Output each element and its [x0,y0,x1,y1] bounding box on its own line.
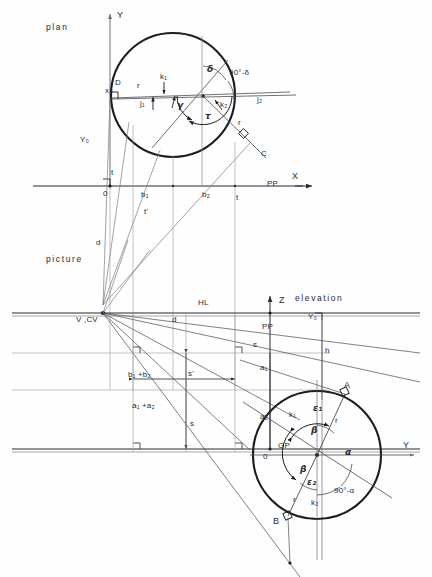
picture-a1-label: a₁ [260,364,268,372]
vp-ray-4 [103,313,250,450]
picture-view-group [12,240,420,577]
ra-mark-1 [133,347,140,353]
elevation-converge-1 [288,518,290,563]
elevation-arc-eps1 [317,425,334,433]
plan-gamma-label: γ [177,101,183,110]
plan-point-D-label: D [115,79,121,87]
plan-origin-label: 0 [103,190,108,198]
plan-k2-label: k₂ [220,101,228,109]
ra-mark-4 [235,443,242,449]
plan-origin-point [108,184,111,187]
picture-s-prime-label: s' [188,370,194,378]
picture-z-axis-label: Z [279,296,285,305]
diagram-canvas: plan Y X PP 0 D x₀ Y₀ r r C j₁ j₂ k₁ k₂ … [0,0,432,577]
elevation-h-label: h [325,347,330,355]
plan-delta-label: δ [207,65,213,74]
plan-tick-b2 [234,185,236,187]
plan-y-axis-label: Y [117,11,123,20]
elevation-beta-upper-label: β [311,426,318,435]
elevation-k2-label: k₂ [311,499,319,507]
plan-ray-1 [103,98,110,305]
plan-j1-label: j₁ [140,100,145,108]
plan-t-prime-label: t' [144,208,148,216]
elevation-y0-label: Y₀ [308,313,317,321]
plan-title: plan [46,23,68,32]
plan-t-right-label: t [236,194,238,202]
plan-b1-label: b₁ [141,191,149,199]
vanishing-point-label: V ,CV [76,316,98,324]
plan-r-right-label: r [238,119,241,127]
plan-x0-label: x₀ [105,87,113,95]
picture-origin-label: 0 [263,453,268,461]
plan-tick-b1 [172,185,174,187]
ra-mark-3 [133,443,140,449]
vp-ray-1 [103,313,420,353]
elevation-r-lower-label: r [293,496,296,504]
elevation-arc-alpha [341,464,352,486]
elevation-alpha-complement-label: 90°-α [334,487,354,495]
picture-s-lower-label: s [190,420,194,428]
diagram-vector-layer [0,0,432,577]
elevation-eps1-label: ε₁ [313,404,322,413]
picture-a2-label: a₂ [260,413,268,421]
elevation-arc-beta-lower [282,432,296,480]
plan-delta-complement-label: 90°-δ [229,69,249,77]
elevation-eps2-label: ε₂ [307,478,316,487]
elevation-beta-lower-label: β [300,465,307,474]
horizon-line-label: HL [198,299,209,307]
picture-d-label: d [172,316,177,324]
plan-b2-label: b₂ [202,191,210,199]
elevation-alpha-label: α [345,448,351,457]
elevation-title: elevation [295,294,343,303]
plan-d-label: d [96,239,101,247]
plan-tau-label: τ [205,112,211,121]
plan-t-left-label: t [111,169,113,177]
elevation-converge-point [288,561,291,564]
plan-ray-t-right [103,143,250,305]
plan-j2-label: j₂ [257,96,262,104]
plan-circle [111,33,235,157]
ground-plane-label: GP [278,442,290,450]
picture-a-sum-label: a₁ +a₂ [132,402,155,410]
picture-pp-point [268,311,271,314]
plan-right-angle-C [239,129,249,139]
elevation-point-B-label: B [273,517,279,526]
picture-title: picture [46,255,83,264]
plan-ray-t-left [103,122,129,305]
plan-k1-label: k₁ [160,73,167,81]
elevation-y-axis-label: Y [403,441,409,450]
picture-b-sum-label: b₁ +b₂ [128,371,151,379]
gp-origin-point [268,447,271,450]
plan-r-left-label: r [137,82,140,90]
picture-pp-label: PP [262,323,273,331]
plan-point-C-label: C [261,150,267,158]
elevation-r-upper-label: r [335,417,338,425]
elevation-view-group [240,320,414,565]
elevation-ray-A [240,360,345,394]
plan-y0-label: Y₀ [80,136,89,144]
plan-pp-label: PP [267,180,278,188]
elevation-point-A-label: A [344,381,350,390]
plan-x-axis-label: X [292,172,298,181]
picture-s-label: s [253,341,257,349]
elevation-k1-label: k₁ [289,411,296,419]
ra-mark-2 [235,347,242,353]
